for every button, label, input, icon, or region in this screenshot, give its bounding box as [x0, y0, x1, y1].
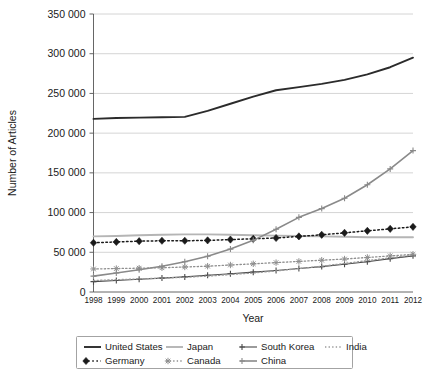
legend-swatch-marker: [239, 344, 245, 350]
series-marker: [91, 279, 97, 285]
legend-item-south-korea[interactable]: South Korea: [239, 341, 315, 352]
legend-label: Germany: [105, 355, 145, 366]
series-marker: [410, 251, 416, 257]
y-tick-label: 50 000: [53, 246, 85, 258]
legend-swatch-marker: [165, 358, 171, 364]
series-marker: [182, 259, 188, 265]
x-axis-tick-labels: 1998199920002001200220032004200520062007…: [84, 296, 422, 305]
series-marker: [90, 266, 96, 272]
series-marker: [364, 254, 370, 260]
y-tick-label: 100 000: [48, 206, 86, 218]
series-marker: [91, 273, 97, 279]
series-united-states: [94, 58, 414, 119]
series-marker: [159, 263, 165, 269]
x-tick-label: 2012: [404, 296, 423, 305]
y-tick-label: 250 000: [48, 87, 86, 99]
x-tick-label: 2008: [313, 296, 332, 305]
x-axis-title: Year: [242, 312, 264, 324]
series-marker: [227, 246, 233, 252]
legend-label: Japan: [187, 341, 213, 352]
x-tick-label: 2001: [153, 296, 172, 305]
y-tick-label: 350 000: [48, 8, 86, 20]
series-marker: [204, 263, 210, 269]
series-marker: [113, 277, 119, 283]
legend-label: Canada: [187, 355, 221, 366]
series-marker: [204, 237, 210, 244]
x-tick-label: 2011: [381, 296, 399, 305]
series-marker: [387, 225, 393, 232]
series-marker: [296, 258, 302, 264]
legend-item-japan[interactable]: Japan: [166, 341, 213, 352]
series-marker: [136, 238, 142, 245]
x-tick-label: 2005: [244, 296, 263, 305]
grid-and-axes: [90, 14, 414, 292]
series-marker: [90, 239, 96, 246]
legend: United StatesJapanSouth KoreaIndiaGerman…: [77, 337, 368, 369]
x-tick-label: 2007: [290, 296, 309, 305]
x-tick-label: 2002: [176, 296, 195, 305]
series-marker: [410, 223, 416, 230]
series-marker: [227, 236, 233, 243]
series-marker: [159, 237, 165, 244]
legend-item-united-states[interactable]: United States: [84, 341, 163, 352]
x-tick-label: 2010: [358, 296, 377, 305]
series-marker: [319, 257, 325, 263]
legend-item-canada[interactable]: Canada: [165, 355, 221, 366]
x-tick-label: 1998: [84, 296, 103, 305]
legend-item-india[interactable]: India: [325, 341, 367, 352]
series-line: [94, 58, 414, 119]
series-marker: [227, 271, 233, 277]
chart-canvas: 050 000100 000150 000200 000250 000300 0…: [0, 0, 431, 380]
x-tick-label: 1999: [107, 296, 126, 305]
series-marker: [273, 226, 279, 232]
y-tick-label: 300 000: [48, 47, 86, 59]
line-chart-figure: 050 000100 000150 000200 000250 000300 0…: [0, 0, 431, 380]
series-marker: [364, 227, 370, 234]
legend-swatch-marker: [83, 357, 89, 364]
series-marker: [341, 229, 347, 236]
legend-items: United StatesJapanSouth KoreaIndiaGerman…: [83, 341, 368, 366]
y-axis-title: Number of Articles: [6, 110, 18, 196]
series-marker: [250, 261, 256, 267]
legend-label: China: [261, 355, 287, 366]
x-tick-label: 2009: [335, 296, 354, 305]
series-marker: [182, 237, 188, 244]
y-axis-tick-labels: 050 000100 000150 000200 000250 000300 0…: [48, 8, 86, 298]
series-marker: [205, 253, 211, 259]
series-marker: [227, 262, 233, 268]
series-marker: [205, 272, 211, 278]
y-axis-tickmarks: [90, 14, 94, 292]
data-series-layer: [90, 58, 416, 285]
x-tick-label: 2004: [221, 296, 240, 305]
series-marker: [273, 259, 279, 265]
series-marker: [296, 214, 302, 220]
legend-swatch-marker: [239, 358, 245, 364]
series-marker: [341, 256, 347, 262]
gridlines: [94, 14, 414, 252]
legend-label: South Korea: [261, 341, 315, 352]
y-tick-label: 150 000: [48, 166, 86, 178]
legend-item-china[interactable]: China: [239, 355, 287, 366]
series-marker: [296, 233, 302, 240]
x-tick-label: 2000: [130, 296, 149, 305]
series-marker: [387, 253, 393, 259]
series-marker: [113, 238, 119, 245]
y-tick-label: 200 000: [48, 127, 86, 139]
legend-label: India: [346, 341, 367, 352]
x-tick-label: 2003: [198, 296, 217, 305]
legend-item-germany[interactable]: Germany: [83, 355, 145, 366]
legend-label: United States: [105, 341, 163, 352]
x-tick-label: 2006: [267, 296, 286, 305]
series-marker: [319, 206, 325, 212]
